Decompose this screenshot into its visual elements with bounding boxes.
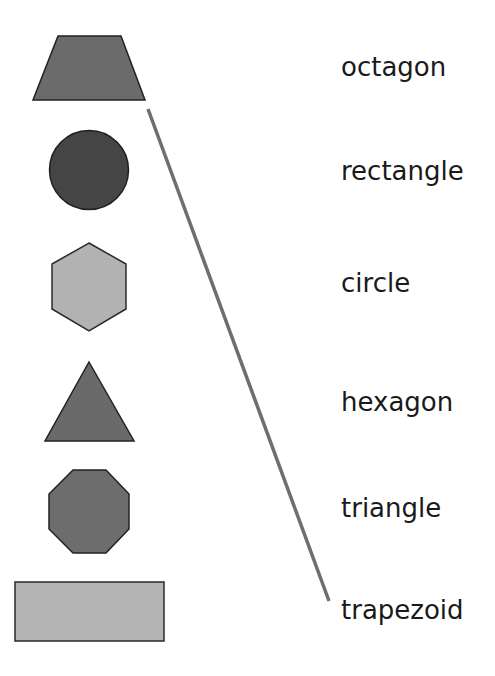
label-circle[interactable]: circle: [341, 270, 410, 296]
rectangle-shape[interactable]: [15, 582, 164, 641]
circle-shape[interactable]: [50, 131, 129, 210]
label-trapezoid[interactable]: trapezoid: [341, 597, 464, 623]
label-octagon[interactable]: octagon: [341, 54, 446, 80]
match-line-trapezoid[interactable]: [148, 109, 329, 601]
hexagon-shape[interactable]: [52, 243, 126, 331]
trapezoid-shape[interactable]: [33, 36, 145, 100]
triangle-shape[interactable]: [45, 362, 134, 441]
shape-matching-worksheet: octagon rectangle circle hexagon triangl…: [0, 0, 495, 676]
octagon-shape[interactable]: [49, 470, 129, 553]
label-triangle[interactable]: triangle: [341, 495, 441, 521]
shapes-canvas: [0, 0, 495, 676]
label-rectangle[interactable]: rectangle: [341, 158, 464, 184]
label-hexagon[interactable]: hexagon: [341, 389, 453, 415]
